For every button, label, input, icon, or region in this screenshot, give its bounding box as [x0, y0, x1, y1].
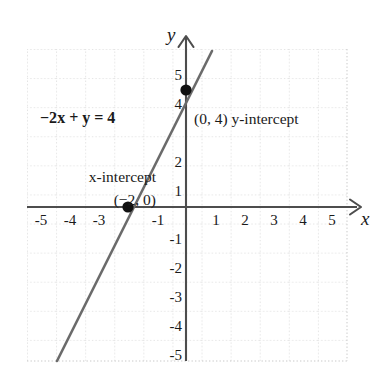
y-intercept-point — [180, 84, 191, 95]
x-tick--1: -1 — [152, 213, 165, 228]
x-tick-4: 4 — [299, 213, 307, 228]
x-intercept-variable: x — [89, 168, 97, 185]
x-tick-2: 2 — [241, 213, 249, 228]
equation-operator: + — [65, 109, 82, 126]
y-intercept-annotation: (0, 4) y-intercept — [194, 110, 299, 129]
y-tick-2: 2 — [166, 155, 182, 170]
y-tick--4: -4 — [158, 319, 182, 334]
x-intercept-annotation: x-intercept (−2, 0) — [30, 168, 156, 209]
y-tick--3: -3 — [158, 290, 182, 305]
x-intercept-title-row: x-intercept — [30, 168, 156, 187]
y-tick--1: -1 — [158, 232, 182, 247]
graph-figure: y x -5 -4 -3 -1 1 2 3 4 5 5 4 2 1 -1 -2 … — [0, 0, 392, 374]
x-tick--4: -4 — [64, 213, 77, 228]
y-tick-1: 1 — [166, 184, 182, 199]
y-intercept-suffix: -intercept — [239, 110, 298, 127]
x-intercept-coords: (−2, 0) — [30, 191, 156, 209]
equation-prefix: −2 — [40, 109, 57, 126]
equation-annotation: −2x + y = 4 — [40, 109, 115, 128]
equation-suffix: = 4 — [90, 109, 115, 126]
y-intercept-coords: (0, 4) — [194, 110, 228, 127]
y-tick-4: 4 — [166, 97, 182, 112]
equation-variable-x: x — [57, 109, 65, 126]
x-tick-5: 5 — [328, 213, 336, 228]
x-tick--5: -5 — [35, 213, 48, 228]
x-axis-label: x — [361, 209, 369, 228]
x-intercept-suffix: -intercept — [97, 168, 156, 185]
x-tick-3: 3 — [270, 213, 278, 228]
y-tick--5: -5 — [158, 348, 182, 363]
y-tick-5: 5 — [166, 68, 182, 83]
y-tick--2: -2 — [158, 261, 182, 276]
x-tick-1: 1 — [212, 213, 220, 228]
x-tick--3: -3 — [93, 213, 106, 228]
y-axis-label: y — [167, 25, 175, 44]
